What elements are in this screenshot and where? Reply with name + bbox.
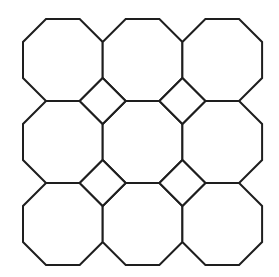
tiling-canvas (0, 0, 279, 277)
octagon-layer (23, 19, 262, 265)
